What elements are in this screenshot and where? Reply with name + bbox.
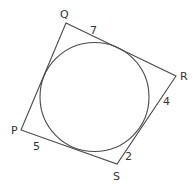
vertex-label-p: P <box>11 124 18 137</box>
vertex-label-s: S <box>113 170 120 183</box>
vertex-label-q: Q <box>60 8 69 21</box>
segment-label-4: 4 <box>163 95 170 108</box>
quadrilateral-pqrs <box>21 23 176 164</box>
vertex-label-r: R <box>180 70 188 83</box>
diagram-canvas: P Q R S 7 4 2 5 <box>0 0 194 186</box>
segment-label-7: 7 <box>90 24 97 37</box>
segment-label-2: 2 <box>125 150 132 163</box>
inscribed-circle <box>40 43 149 152</box>
segment-label-5: 5 <box>33 140 40 153</box>
